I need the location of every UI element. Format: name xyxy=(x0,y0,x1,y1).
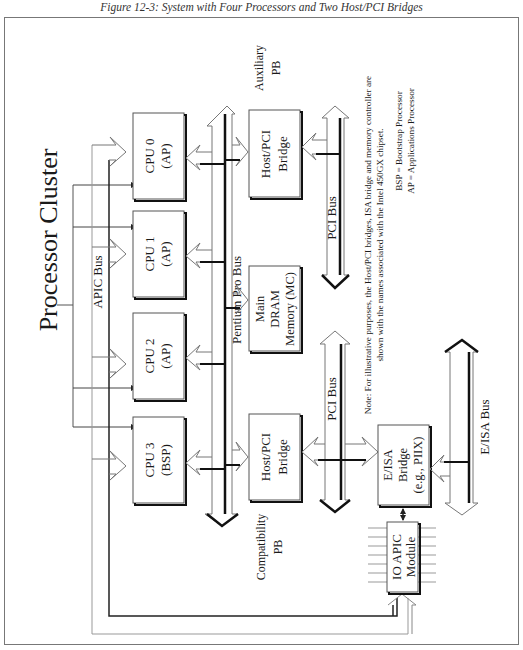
eisa-bridge: E/ISA Bridge (e.g., PIIX) xyxy=(378,425,431,507)
cpu-0-role: (AP) xyxy=(158,143,173,168)
eisa-bridge-line1: E/ISA xyxy=(381,449,395,480)
host-pci-aux-line2: Bridge xyxy=(275,136,290,172)
io-apic-line2: Module xyxy=(403,537,418,578)
host-pci-compat-line1: Host/PCI xyxy=(258,433,273,481)
eisa-bridge-line2: Bridge xyxy=(396,448,410,482)
cpu-3: CPU 3 (BSP) xyxy=(133,417,186,505)
dram-line2: DRAM xyxy=(268,290,282,328)
cpu-3-role: (BSP) xyxy=(158,444,173,476)
cpu-0-name: CPU 0 xyxy=(142,138,157,173)
pci-bus-aux-label: PCI Bus xyxy=(324,196,339,240)
host-pci-bridge-auxiliary: Host/PCI Bridge xyxy=(249,110,302,199)
cpu-1-name: CPU 1 xyxy=(142,236,157,271)
auxiliary-pb-label-1: Auxiliary xyxy=(252,45,266,91)
cpu-3-name: CPU 3 xyxy=(142,442,157,477)
ppro-cpu-connectors xyxy=(186,145,225,475)
dram-line1: Main xyxy=(253,295,267,322)
compatibility-pb-label-1: Compatibility xyxy=(254,514,268,581)
cpu-2-role: (AP) xyxy=(158,343,173,368)
host-pci-bridge-compatibility: Host/PCI Bridge xyxy=(249,414,302,502)
cpu-1-role: (AP) xyxy=(158,241,173,266)
apic-bus-label: APIC Bus xyxy=(90,255,105,308)
eisa-bus-label: E/ISA Bus xyxy=(477,399,492,454)
io-apic-line1: IO APIC xyxy=(389,534,404,580)
eisa-bus xyxy=(430,340,478,515)
cpu-1: CPU 1 (AP) xyxy=(133,211,186,299)
system-diagram: Processor Cluster APIC Bus CPU 0 (AP) CP… xyxy=(0,0,523,650)
legend-bsp: BSP = Bootstrap Processor xyxy=(394,91,404,191)
legend-ap: AP = Applications Processor xyxy=(406,88,416,194)
cpu-2: CPU 2 (AP) xyxy=(133,313,186,401)
host-pci-compat-line2: Bridge xyxy=(275,439,290,475)
pentium-pro-bus-label: Pentium Pro Bus xyxy=(229,256,244,344)
compatibility-pb-label-2: PB xyxy=(271,540,285,555)
host-pci-aux-line1: Host/PCI xyxy=(258,130,273,178)
note-line-1: Note: For illustrative purposes, the Hos… xyxy=(363,76,373,414)
auxiliary-pb-label-2: PB xyxy=(269,61,283,76)
note-line-2: shown with the names associated with the… xyxy=(375,128,385,361)
cpu-2-name: CPU 2 xyxy=(142,338,157,373)
main-dram-memory: Main DRAM Memory (MC) xyxy=(249,266,302,353)
title-processor-cluster: Processor Cluster xyxy=(34,148,63,331)
dram-line3: Memory (MC) xyxy=(283,272,297,346)
io-apic-module: IO APIC Module xyxy=(368,522,436,594)
eisa-bridge-line3: (e.g., PIIX) xyxy=(411,437,425,494)
pci-bus-compat-label: PCI Bus xyxy=(324,377,339,421)
cpu-0: CPU 0 (AP) xyxy=(133,113,186,201)
